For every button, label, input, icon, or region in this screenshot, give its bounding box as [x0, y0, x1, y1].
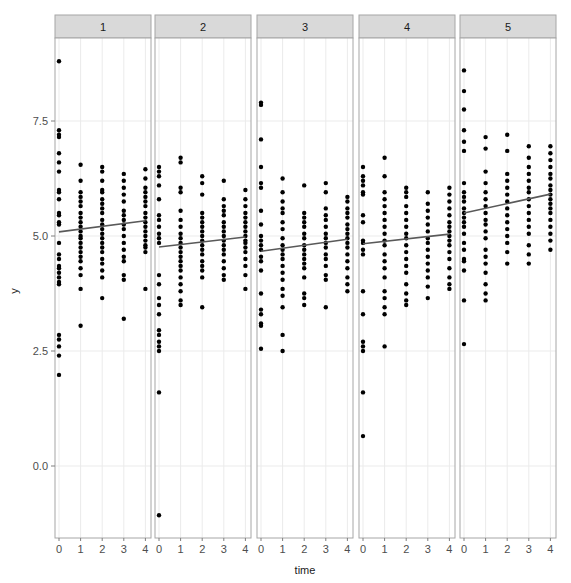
facet-panel-2: 2 [155, 15, 251, 538]
facet-label: 3 [302, 21, 308, 33]
x-axis-panel-5: 01234 [461, 538, 554, 555]
facet-label: 2 [200, 21, 206, 33]
x-tick-label: 0 [156, 543, 162, 555]
panel-background [155, 38, 251, 538]
y-tick-label: 0.0 [33, 460, 48, 472]
x-tick-label: 3 [323, 543, 329, 555]
y-axis-title: y [8, 288, 20, 294]
x-tick-label: 1 [483, 543, 489, 555]
x-axis-panel-1: 01234 [56, 538, 149, 555]
x-tick-label: 1 [382, 543, 388, 555]
x-tick-label: 0 [258, 543, 264, 555]
x-tick-label: 2 [504, 543, 510, 555]
facet-label: 1 [100, 21, 106, 33]
x-axes: 0123401234012340123401234 [56, 538, 554, 555]
y-tick-label: 5.0 [33, 230, 48, 242]
x-tick-label: 1 [178, 543, 184, 555]
facet-panel-3: 3 [257, 15, 353, 538]
panel-background [55, 38, 151, 538]
x-tick-label: 3 [121, 543, 127, 555]
x-tick-label: 4 [142, 543, 148, 555]
x-tick-label: 3 [526, 543, 532, 555]
x-tick-label: 0 [461, 543, 467, 555]
x-tick-label: 3 [425, 543, 431, 555]
x-axis-panel-3: 01234 [258, 538, 351, 555]
y-tick-label: 2.5 [33, 345, 48, 357]
x-tick-label: 1 [280, 543, 286, 555]
x-tick-label: 4 [547, 543, 553, 555]
x-tick-label: 3 [221, 543, 227, 555]
x-tick-label: 1 [78, 543, 84, 555]
facet-label: 4 [404, 21, 410, 33]
x-tick-label: 2 [301, 543, 307, 555]
x-tick-label: 4 [446, 543, 452, 555]
x-tick-label: 0 [360, 543, 366, 555]
x-tick-label: 2 [199, 543, 205, 555]
y-axis: 0.02.55.07.5 [33, 115, 55, 472]
x-tick-label: 0 [56, 543, 62, 555]
x-tick-label: 4 [242, 543, 248, 555]
panel-background [359, 38, 455, 538]
x-axis-panel-4: 01234 [360, 538, 453, 555]
panel-background [460, 38, 556, 538]
facet-panel-4: 4 [359, 15, 455, 538]
panel-background [257, 38, 353, 538]
x-tick-label: 2 [403, 543, 409, 555]
x-tick-label: 4 [344, 543, 350, 555]
facet-panel-1: 1 [55, 15, 151, 538]
facet-label: 5 [505, 21, 511, 33]
faceted-scatter-chart: 12345 0.02.55.07.5 012340123401234012340… [0, 0, 571, 583]
x-tick-label: 2 [99, 543, 105, 555]
facet-panels: 12345 [55, 15, 556, 538]
x-axis-title: time [295, 564, 316, 576]
y-tick-label: 7.5 [33, 115, 48, 127]
facet-panel-5: 5 [460, 15, 556, 538]
x-axis-panel-2: 01234 [156, 538, 249, 555]
